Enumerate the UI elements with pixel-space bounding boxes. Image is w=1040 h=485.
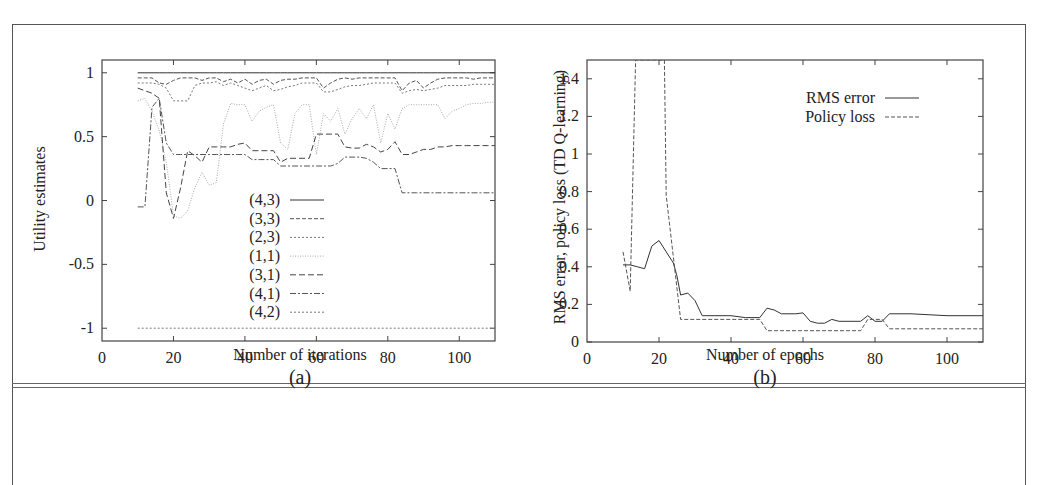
chart-rms-policy-loss: 02040608010000.20.40.60.811.21.4RMS erro… bbox=[0, 0, 1040, 400]
panel-b-xlabel: Number of epochs bbox=[645, 346, 885, 364]
y-tick-label: 1 bbox=[571, 145, 579, 162]
y-tick-label: 0 bbox=[571, 333, 579, 350]
series-policy-loss bbox=[623, 60, 983, 331]
plot-frame bbox=[587, 60, 983, 342]
panel-a-ylabel: Utility estimates bbox=[31, 119, 49, 279]
panel-a-caption: (a) bbox=[240, 366, 360, 389]
legend-label: RMS error bbox=[806, 89, 876, 106]
panel-b-caption: (b) bbox=[715, 366, 815, 389]
series-group bbox=[623, 60, 983, 331]
x-tick-label: 0 bbox=[583, 350, 591, 367]
legend-label: Policy loss bbox=[805, 108, 875, 126]
x-tick-label: 100 bbox=[935, 350, 959, 367]
series-rms-error bbox=[623, 241, 983, 324]
panel-a-xlabel: Number of iterations bbox=[180, 346, 420, 364]
panel-b-ylabel: RMS error, policy loss (TD Q-learning) bbox=[551, 37, 569, 357]
